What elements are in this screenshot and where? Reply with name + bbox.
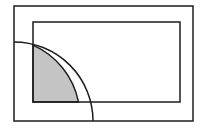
geometry-figure-container xyxy=(0,0,205,133)
geometry-figure-svg xyxy=(0,0,205,133)
figure-background xyxy=(0,0,205,133)
